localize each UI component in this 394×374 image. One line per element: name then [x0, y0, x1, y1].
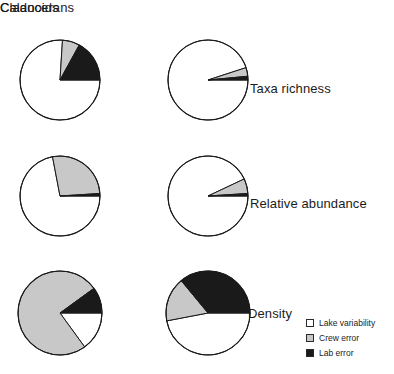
legend-label-lab-error: Lab error [319, 348, 354, 358]
pie-slice-crew-error [53, 156, 100, 196]
legend: Lake variability Crew error Lab error [306, 316, 392, 361]
legend-swatch-lab-error [306, 349, 314, 357]
pie-calanoids-relative-abundance [168, 156, 248, 236]
legend-item-lab-error: Lab error [306, 346, 392, 359]
column-header-calanoids: Calanoids [0, 0, 59, 15]
row-label-density: Density [248, 306, 292, 321]
row-label-taxa-richness: Taxa richness [250, 81, 331, 96]
legend-label-crew-error: Crew error [319, 333, 359, 343]
row-label-relative-abundance: Relative abundance [250, 196, 367, 211]
pie-calanoids-taxa-richness [168, 40, 248, 120]
pie-cladocerans-relative-abundance [20, 156, 100, 236]
pie-slice-lake-variability [167, 313, 250, 355]
legend-label-lake-variability: Lake variability [319, 318, 375, 328]
legend-swatch-crew-error [306, 334, 314, 342]
variance-pie-chart-figure: Cladocerans Calanoids Taxa richness Rela… [0, 0, 394, 374]
legend-swatch-lake-variability [306, 319, 314, 327]
pie-cladocerans-taxa-richness [20, 40, 100, 120]
pie-calanoids-density [166, 271, 250, 355]
pie-cladocerans-density [18, 271, 102, 355]
legend-item-lake-variability: Lake variability [306, 316, 392, 329]
legend-item-crew-error: Crew error [306, 331, 392, 344]
